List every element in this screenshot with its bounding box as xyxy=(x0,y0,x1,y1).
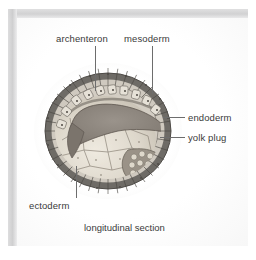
figure-caption: longitudinal section xyxy=(84,222,165,233)
leader-line-ectoderm xyxy=(76,166,77,198)
leader-line-archenteron xyxy=(95,46,96,91)
label-archenteron: archenteron xyxy=(56,33,108,44)
label-yolk-plug: yolk plug xyxy=(188,132,226,143)
figure-root: archenteron mesoderm endoderm yolk plug … xyxy=(0,0,256,260)
leader-line-yolk-plug xyxy=(160,137,185,138)
leader-line-mesoderm xyxy=(152,46,153,94)
leader-line-endoderm xyxy=(163,117,185,118)
label-endoderm: endoderm xyxy=(188,112,232,123)
label-mesoderm: mesoderm xyxy=(124,33,170,44)
label-ectoderm: ectoderm xyxy=(29,200,69,211)
